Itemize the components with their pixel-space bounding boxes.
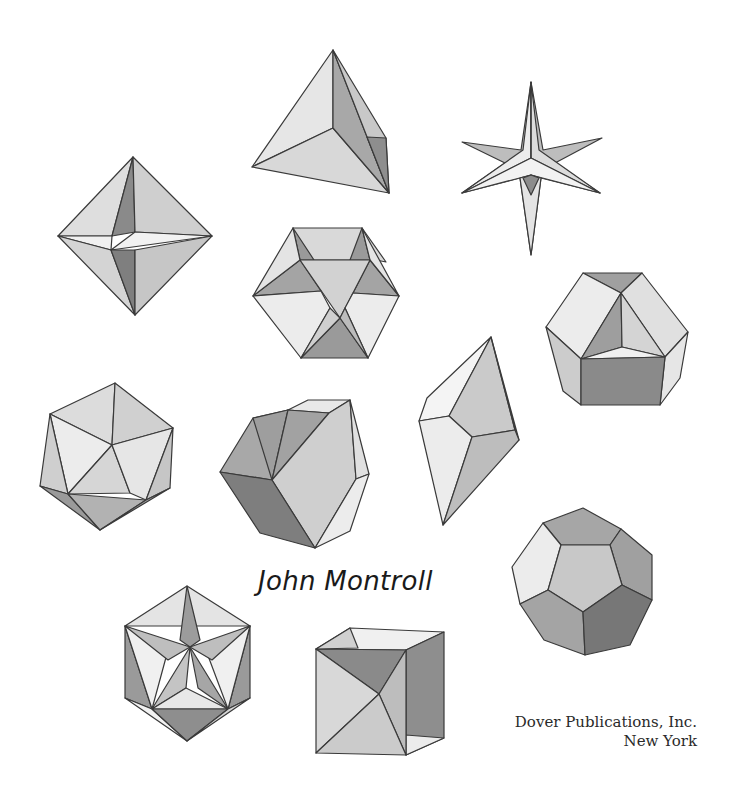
octahedron-illustration bbox=[58, 157, 212, 315]
cuboctahedron-illustration bbox=[220, 400, 369, 548]
tetrahedron-illustration bbox=[252, 50, 389, 193]
star-polyhedron-illustration bbox=[462, 82, 602, 255]
dodecahedron-illustration bbox=[512, 508, 652, 655]
hexagonal-polyhedron-illustration bbox=[253, 228, 399, 358]
great-icosahedron-illustration bbox=[125, 586, 250, 741]
title-page: John Montroll Dover Publications, Inc. N… bbox=[0, 0, 731, 792]
open-cube-illustration bbox=[316, 628, 444, 755]
crystal-illustration bbox=[419, 337, 519, 525]
publisher-name: Dover Publications, Inc. bbox=[515, 713, 697, 732]
publisher-block: Dover Publications, Inc. New York bbox=[515, 713, 697, 751]
publisher-city: New York bbox=[515, 732, 697, 751]
polyhedra-artwork bbox=[0, 0, 731, 792]
pentagonal-polyhedron-illustration bbox=[546, 273, 688, 405]
icosahedron-illustration bbox=[40, 383, 173, 530]
author-name: John Montroll bbox=[258, 566, 433, 596]
